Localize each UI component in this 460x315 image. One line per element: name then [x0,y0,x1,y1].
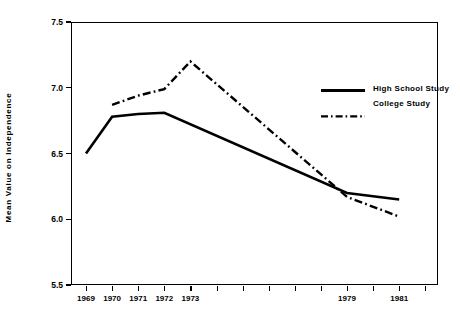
plot-area [71,22,438,285]
x-tick-mark [138,286,139,291]
x-tick-mark [321,286,322,291]
y-tick-label: 5.5 [29,280,63,290]
x-tick-mark [269,286,270,291]
legend-label: College Study [373,99,430,108]
series-line [86,113,399,200]
x-tick-label: 1971 [118,294,158,303]
x-tick-mark [86,286,87,291]
x-tick-label: 1981 [379,294,419,303]
x-tick-label: 1972 [144,294,184,303]
x-tick-mark [399,286,400,291]
x-tick-mark [112,286,113,291]
x-tick-mark [164,286,165,291]
x-tick-label: 1969 [66,294,106,303]
y-tick-label: 7.0 [29,83,63,93]
independence-line-chart: Mean Value on Independence 5.56.06.57.07… [0,0,460,315]
y-axis-title: Mean Value on Independence [0,0,16,315]
y-tick-label: 6.5 [29,149,63,159]
legend-swatch-solid-line [321,89,365,92]
legend-label: High School Study [373,84,449,93]
series-lines [72,23,437,284]
x-tick-mark [295,286,296,291]
x-tick-label: 1973 [170,294,210,303]
x-tick-mark [243,286,244,291]
y-tick-label: 7.5 [29,17,63,27]
x-tick-mark [373,286,374,291]
x-tick-label: 1970 [92,294,132,303]
x-tick-mark [190,286,191,291]
x-tick-mark [217,286,218,291]
y-tick-label: 6.0 [29,214,63,224]
legend-swatch-dashdot-line [321,104,365,106]
x-tick-mark [425,286,426,291]
x-tick-label: 1979 [327,294,367,303]
x-tick-mark [347,286,348,291]
